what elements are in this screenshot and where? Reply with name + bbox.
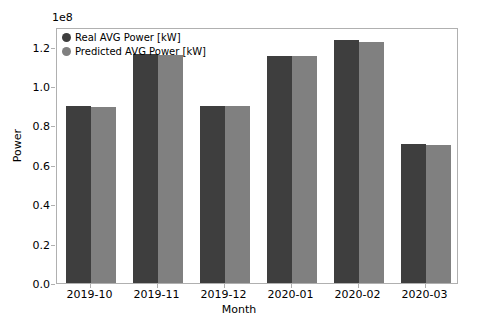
x-axis-tick-label: 2019-11 xyxy=(134,288,180,301)
bar xyxy=(133,54,158,283)
y-axis-tick-mark xyxy=(51,166,55,167)
bar xyxy=(267,56,292,283)
legend-label: Real AVG Power [kW] xyxy=(75,32,181,43)
bar xyxy=(158,55,183,283)
y-axis-tick-mark xyxy=(51,245,55,246)
y-axis-tick-label: 1.2 xyxy=(33,41,51,54)
x-axis-tick-label: 2019-12 xyxy=(201,288,247,301)
x-axis-label: Month xyxy=(0,303,478,316)
chart-legend: Real AVG Power [kW]Predicted AVG Power [… xyxy=(62,30,206,58)
legend-item: Real AVG Power [kW] xyxy=(62,30,206,44)
y-axis-tick-mark xyxy=(51,48,55,49)
legend-marker-icon xyxy=(62,33,71,42)
y-axis-tick-mark xyxy=(51,205,55,206)
y-axis-label: Power xyxy=(11,116,24,176)
y-axis-tick-mark xyxy=(51,126,55,127)
x-axis-tick-label: 2020-03 xyxy=(402,288,448,301)
y-axis-tick-label: 0.4 xyxy=(33,199,51,212)
plot-area: Real AVG Power [kW]Predicted AVG Power [… xyxy=(56,28,458,284)
bar xyxy=(401,144,426,283)
bar xyxy=(359,42,384,283)
y-axis-tick-label: 1.0 xyxy=(33,81,51,94)
y-axis-tick-label: 0.6 xyxy=(33,159,51,172)
bar xyxy=(200,106,225,283)
bar xyxy=(292,56,317,283)
y-axis-tick-mark xyxy=(51,284,55,285)
y-axis-offset-text: 1e8 xyxy=(52,11,73,24)
y-axis-tick-labels: 0.00.20.40.60.81.01.2 xyxy=(0,0,50,318)
y-axis-tick-label: 0.0 xyxy=(33,278,51,291)
bar xyxy=(91,107,116,283)
legend-label: Predicted AVG Power [kW] xyxy=(75,46,206,57)
y-axis-tick-label: 0.2 xyxy=(33,238,51,251)
bar xyxy=(66,106,91,283)
x-axis-tick-label: 2019-10 xyxy=(67,288,113,301)
x-axis-tick-label: 2020-02 xyxy=(335,288,381,301)
bar xyxy=(334,40,359,283)
x-axis-tick-label: 2020-01 xyxy=(268,288,314,301)
legend-marker-icon xyxy=(62,47,71,56)
chart-figure: 1e8 0.00.20.40.60.81.01.2 Power Real AVG… xyxy=(0,0,478,318)
legend-item: Predicted AVG Power [kW] xyxy=(62,44,206,58)
bar xyxy=(426,145,451,283)
bar xyxy=(225,106,250,283)
y-axis-tick-mark xyxy=(51,87,55,88)
y-axis-tick-label: 0.8 xyxy=(33,120,51,133)
